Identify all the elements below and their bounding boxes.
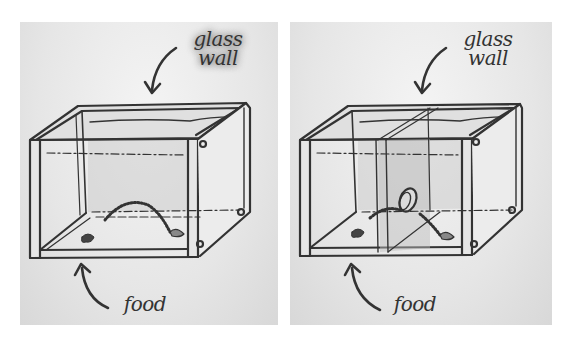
- label-food-right: food: [385, 295, 445, 314]
- label-line: wall: [458, 49, 518, 68]
- label-glass-wall-right: glass wall: [458, 30, 518, 68]
- figure: glass wall food: [0, 0, 564, 345]
